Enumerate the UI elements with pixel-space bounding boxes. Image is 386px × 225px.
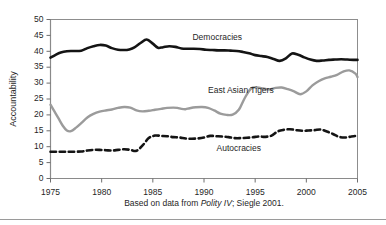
series-label-east-asian-tigers: East Asian Tigers [208,85,274,95]
y-tick-label: 20 [34,109,44,119]
x-tick-label: 2000 [297,187,316,197]
series-label-democracies: Democracies [192,32,242,42]
y-tick-label: 50 [34,14,44,24]
accountability-line-chart: 50454035302520151050 1975198019851990199… [0,0,386,225]
x-tick-label: 1985 [143,187,162,197]
x-tick-label: 1975 [41,187,60,197]
y-tick-label: 35 [34,61,44,71]
x-tick-label: 1995 [246,187,265,197]
caption-prefix: Based on data from [124,198,201,208]
series-label-autocracies: Autocracies [217,143,261,153]
y-tick-label: 0 [39,173,44,183]
y-tick-label: 15 [34,125,44,135]
y-tick-label: 25 [34,93,44,103]
x-tick-label: 1990 [195,187,214,197]
source-caption: Based on data from Polity IV; Siegle 200… [124,198,284,208]
x-tick-label: 2005 [348,187,367,197]
y-tick-label: 40 [34,46,44,56]
x-tick-label: 1980 [92,187,111,197]
chart-figure: 50454035302520151050 1975198019851990199… [0,0,386,225]
caption-source-title: Polity IV [201,198,234,208]
y-tick-label: 45 [34,30,44,40]
caption-suffix: ; Siegle 2001. [232,198,284,208]
y-axis-title: Accountability [8,71,18,127]
y-tick-label: 5 [39,157,44,167]
y-tick-label: 30 [34,77,44,87]
y-tick-label: 10 [34,141,44,151]
